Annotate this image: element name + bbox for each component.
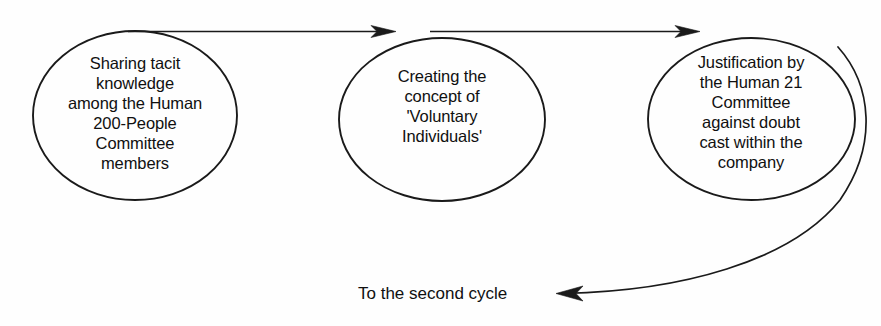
diagram-canvas: Sharing tacit knowledge among the Human … xyxy=(0,0,881,326)
connector-arrow-2 xyxy=(430,26,700,38)
node-label-2: Creating the concept of 'Voluntary Indiv… xyxy=(348,66,536,146)
return-cycle-caption: To the second cycle xyxy=(358,283,548,304)
node-label-1: Sharing tacit knowledge among the Human … xyxy=(40,53,230,173)
node-label-3: Justification by the Human 21 Committee … xyxy=(656,52,846,172)
